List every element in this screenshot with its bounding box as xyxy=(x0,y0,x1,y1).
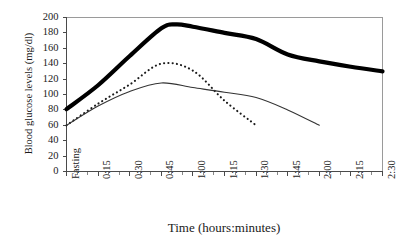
series-bold-curve xyxy=(67,24,383,109)
plot-area xyxy=(0,0,406,243)
chart-container: Blood glucose levels (mg/dl) Time (hours… xyxy=(0,0,406,243)
series-dotted-curve xyxy=(67,63,257,125)
series-thin-curve xyxy=(67,83,320,125)
series-layer xyxy=(67,24,383,125)
